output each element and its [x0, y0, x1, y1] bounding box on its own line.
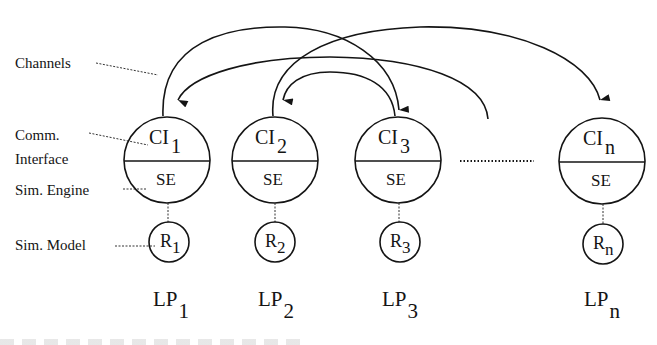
channel-into-lp1: [178, 57, 488, 119]
channels-leader-line: [96, 63, 158, 75]
lpn-r-text: Rn: [593, 233, 614, 254]
lp-network-diagram: [0, 0, 657, 345]
lp3-r-text: R3: [390, 231, 411, 252]
channel-lp3-to-lp2: [283, 72, 395, 116]
lp1-label: LP1: [153, 287, 188, 312]
lpn-label: LPn: [584, 287, 619, 312]
comm-interface-leader-line: [89, 133, 148, 145]
comm-label: Comm.: [15, 127, 60, 143]
lp1-ci-text: CI1: [149, 126, 179, 149]
channels-label: Channels: [15, 55, 71, 71]
lp2-se-text: SE: [263, 170, 283, 190]
lpn-se-text: SE: [591, 171, 611, 191]
lp3-label: LP3: [382, 287, 417, 312]
lp1-r-text: R1: [160, 231, 181, 252]
sim-engine-label: Sim. Engine: [15, 182, 89, 198]
lp2-ci-text: CI2: [255, 126, 285, 149]
cropped-caption-strip: [0, 339, 300, 345]
lpn-ci-text: CIn: [583, 127, 613, 150]
lp2-r-text: R2: [265, 231, 286, 252]
interface-label: Interface: [15, 151, 68, 167]
lp2-label: LP2: [258, 287, 293, 312]
lp3-ci-text: CI3: [378, 126, 408, 149]
sim-model-label: Sim. Model: [15, 237, 86, 253]
lp1-se-text: SE: [156, 170, 176, 190]
lp3-se-text: SE: [386, 170, 406, 190]
channel-lp1-to-lp3: [163, 27, 399, 116]
